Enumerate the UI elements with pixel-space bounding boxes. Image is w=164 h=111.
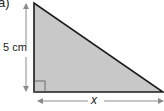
- base-label: x: [91, 93, 97, 107]
- right-triangle: [34, 3, 163, 92]
- part-label: a): [0, 0, 10, 10]
- height-label: 5 cm: [3, 41, 27, 53]
- triangle-diagram: [0, 0, 164, 111]
